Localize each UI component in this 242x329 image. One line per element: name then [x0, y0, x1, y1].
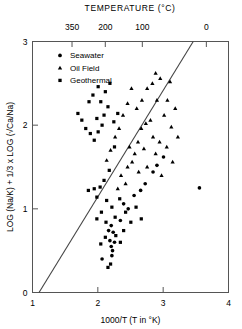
y-axis-tick-label: 1: [23, 204, 28, 214]
data-point-square: [116, 112, 119, 115]
data-point-triangle: [151, 135, 155, 139]
data-point-triangle: [119, 173, 123, 177]
legend-label: Seawater: [70, 51, 104, 60]
data-point-square: [95, 196, 98, 199]
data-point-circle: [122, 202, 126, 206]
trend-line: [39, 42, 193, 293]
data-point-square: [108, 169, 111, 172]
data-point-square: [106, 266, 109, 269]
data-point-square: [97, 85, 100, 88]
x-axis-label: 1000/T (T in °K): [101, 315, 161, 325]
data-point-square: [102, 179, 105, 182]
data-point-square: [99, 185, 102, 188]
data-point-square: [112, 120, 115, 123]
data-point-triangle: [169, 125, 173, 129]
data-point-circle: [100, 257, 104, 261]
data-point-square: [134, 206, 137, 209]
data-point-triangle: [136, 140, 140, 144]
data-point-triangle: [165, 98, 169, 102]
data-point-square: [113, 145, 116, 148]
data-point-square: [87, 100, 90, 103]
data-point-triangle: [133, 151, 137, 155]
data-point-triangle: [145, 165, 149, 169]
data-point-square: [119, 241, 122, 244]
legend-marker-square: [58, 79, 61, 82]
x-axis-tick-label: 3: [161, 298, 166, 308]
top-axis-tick-label: 0: [204, 22, 209, 32]
data-point-circle: [108, 239, 112, 243]
data-point-circle: [162, 155, 166, 159]
data-point-triangle: [165, 145, 169, 149]
data-point-circle: [151, 170, 155, 174]
data-point-triangle: [137, 170, 141, 174]
data-point-triangle: [125, 101, 129, 105]
data-point-circle: [113, 240, 117, 244]
data-point-triangle: [162, 113, 166, 117]
data-point-square: [100, 211, 103, 214]
data-point-triangle: [129, 86, 133, 90]
data-point-circle: [198, 186, 202, 190]
data-point-square: [104, 90, 107, 93]
x-axis-tick-label: 1: [30, 298, 35, 308]
data-point-circle: [109, 245, 113, 249]
data-point-triangle: [124, 182, 128, 186]
data-point-square: [114, 234, 117, 237]
data-point-square: [87, 189, 90, 192]
data-point-square: [99, 242, 102, 245]
data-point-square: [106, 105, 109, 108]
data-point-square: [76, 112, 79, 115]
legend-marker-triangle: [58, 66, 62, 70]
data-point-square: [110, 206, 113, 209]
legend-marker-circle: [58, 54, 62, 58]
data-point-square: [109, 262, 112, 265]
data-point-triangle: [157, 140, 161, 144]
top-axis-tick-label: 100: [135, 22, 149, 32]
data-point-square: [105, 199, 108, 202]
data-point-circle: [119, 219, 123, 223]
data-point-triangle: [159, 173, 163, 177]
scatter-plot: TEMPERATURE (°C)350200100012341000/T (T …: [0, 0, 242, 329]
data-point-square: [124, 211, 127, 214]
data-point-circle: [132, 194, 136, 198]
data-point-square: [80, 119, 83, 122]
x-axis-tick-label: 4: [226, 298, 231, 308]
data-point-circle: [107, 229, 111, 233]
y-axis-tick-label: 3: [23, 37, 28, 47]
data-point-triangle: [121, 113, 125, 117]
y-axis-label: LOG (Na/K) + 1/3 x LOG (√Ca/Na): [5, 102, 15, 232]
data-point-triangle: [105, 158, 109, 162]
data-point-circle: [155, 164, 159, 168]
data-point-triangle: [148, 118, 152, 122]
data-point-square: [100, 124, 103, 127]
data-point-triangle: [173, 106, 177, 110]
data-point-triangle: [145, 86, 149, 90]
y-axis-tick-label: 0: [23, 288, 28, 298]
data-point-square: [93, 187, 96, 190]
data-point-triangle: [116, 187, 120, 191]
chart-figure: TEMPERATURE (°C)350200100012341000/T (T …: [0, 0, 242, 329]
y-axis-tick-label: 2: [23, 120, 28, 130]
data-point-triangle: [142, 146, 146, 150]
data-point-square: [104, 221, 107, 224]
data-point-square: [93, 139, 96, 142]
data-point-circle: [111, 230, 115, 234]
data-point-square: [140, 217, 143, 220]
data-point-circle: [110, 254, 114, 258]
data-point-triangle: [176, 135, 180, 139]
data-point-triangle: [140, 98, 144, 102]
data-point-square: [84, 127, 87, 130]
data-point-triangle: [130, 160, 134, 164]
data-point-circle: [111, 249, 115, 253]
data-point-square: [102, 114, 105, 117]
data-point-triangle: [150, 81, 154, 85]
data-point-square: [95, 217, 98, 220]
data-point-square: [99, 100, 102, 103]
data-point-triangle: [154, 151, 158, 155]
data-point-triangle: [171, 160, 175, 164]
top-axis-tick-label: 200: [98, 22, 112, 32]
x-axis-tick-label: 2: [95, 298, 100, 308]
top-axis-tick-label: 350: [65, 22, 79, 32]
data-point-triangle: [158, 76, 162, 80]
data-point-triangle: [117, 126, 121, 130]
data-point-circle: [109, 224, 113, 228]
